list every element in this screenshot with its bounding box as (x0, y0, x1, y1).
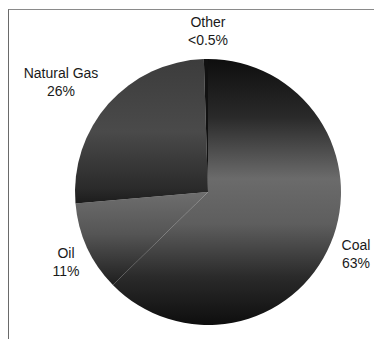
label-natural-gas-value: 26% (24, 82, 99, 100)
label-coal: Coal 63% (342, 236, 371, 272)
label-other-value: <0.5% (188, 31, 228, 49)
label-other: Other <0.5% (188, 13, 228, 49)
label-oil: Oil 11% (53, 244, 80, 280)
label-natural-gas-name: Natural Gas (24, 64, 99, 82)
label-coal-name: Coal (342, 236, 371, 254)
label-oil-name: Oil (53, 244, 80, 262)
label-coal-value: 63% (342, 254, 371, 272)
label-oil-value: 11% (53, 262, 80, 280)
label-other-name: Other (188, 13, 228, 31)
label-natural-gas: Natural Gas 26% (24, 64, 99, 100)
